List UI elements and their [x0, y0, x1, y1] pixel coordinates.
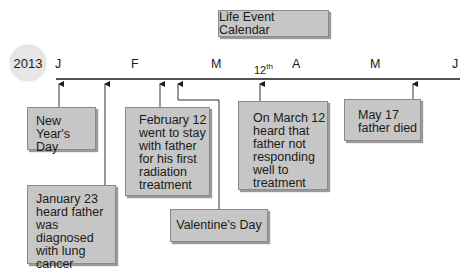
title-text: Life Event Calendar	[219, 11, 328, 37]
month-label-jun: J	[452, 57, 458, 71]
event-mar-12: On March 12heard that father notrespondi…	[238, 101, 328, 190]
month-label-jan: J	[55, 57, 61, 71]
month-label-feb: F	[131, 57, 139, 71]
event-new-years-day: New Year's Day	[27, 107, 96, 150]
day-marker-12th: 12th	[254, 62, 273, 76]
event-may-17: May 17father died	[344, 99, 421, 141]
month-label-apr: A	[292, 57, 300, 71]
month-label-may: M	[370, 57, 380, 71]
event-jan-23: January 23heard father was diagnosedwith…	[27, 185, 116, 264]
event-valentines-day: Valentine's Day	[170, 209, 268, 242]
title-box: Life Event Calendar	[218, 10, 329, 37]
month-label-mar: M	[211, 57, 221, 71]
event-feb-12: February 12went to stay with fatherfor h…	[125, 107, 210, 196]
year-badge: 2013	[10, 45, 46, 81]
